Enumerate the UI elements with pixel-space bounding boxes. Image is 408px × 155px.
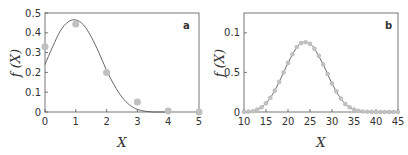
x-tick-label: 0 (42, 116, 48, 127)
data-point (273, 88, 278, 93)
data-point (303, 40, 308, 45)
data-point (317, 53, 322, 58)
data-point (251, 109, 256, 114)
data-point (321, 62, 326, 67)
data-point (365, 109, 370, 114)
data-point (165, 108, 172, 115)
panel-b-frame (244, 13, 398, 112)
data-point (312, 46, 317, 51)
x-tick-label: 20 (282, 116, 295, 127)
data-point (387, 110, 392, 115)
panel-b-y-axis: 00.50.1 (224, 27, 247, 117)
panel-a-fitted-curve (45, 20, 168, 112)
y-tick-label: 0.2 (25, 67, 41, 78)
data-point (352, 107, 357, 112)
data-point (196, 109, 203, 116)
data-point (374, 110, 379, 115)
data-point (299, 41, 304, 46)
y-tick-label: 0.5 (25, 8, 41, 19)
panel-a-y-title: f (X) (8, 49, 23, 78)
data-point (334, 89, 339, 94)
data-point (255, 107, 260, 112)
data-point (343, 102, 348, 107)
data-point (246, 109, 251, 114)
data-point (347, 105, 352, 110)
data-point (281, 70, 286, 75)
x-tick-label: 10 (238, 116, 251, 127)
data-point (286, 61, 291, 66)
panel-b-chart: 00.50.1 1015202530354045 b X f (X) (212, 13, 404, 150)
data-point (42, 43, 49, 50)
x-tick-label: 45 (392, 116, 405, 127)
panel-b-label: b (385, 20, 392, 31)
x-tick-label: 2 (103, 116, 109, 127)
data-point (396, 110, 401, 115)
data-point (330, 81, 335, 86)
x-tick-label: 3 (134, 116, 140, 127)
y-tick-label: 0.3 (25, 47, 41, 58)
data-point (134, 99, 141, 106)
data-point (369, 110, 374, 115)
data-point (290, 52, 295, 57)
panel-a-x-title: X (116, 135, 127, 150)
data-point (242, 110, 247, 115)
x-tick-label: 1 (73, 116, 79, 127)
data-point (383, 110, 388, 115)
panel-a-data-points (42, 20, 203, 115)
data-point (277, 80, 282, 85)
panel-b-x-title: X (315, 135, 326, 150)
panel-a-chart: 00.10.20.30.40.5 012345 a X f (X) (8, 8, 203, 151)
panel-b-y-title: f (X) (212, 49, 227, 78)
x-tick-label: 40 (370, 116, 383, 127)
y-tick-label: 0 (35, 107, 41, 118)
data-point (378, 110, 383, 115)
data-point (103, 69, 110, 76)
panel-b-data-points (242, 40, 401, 114)
data-point (295, 45, 300, 50)
data-point (361, 109, 366, 114)
data-point (264, 101, 269, 106)
x-tick-label: 4 (165, 116, 171, 127)
panel-a-label: a (183, 20, 190, 31)
data-point (325, 72, 330, 77)
y-tick-label: 0.1 (25, 87, 41, 98)
x-tick-label: 30 (326, 116, 339, 127)
y-tick-label: 0.4 (25, 27, 41, 38)
x-tick-label: 25 (304, 116, 317, 127)
x-tick-label: 35 (348, 116, 361, 127)
x-tick-label: 5 (196, 116, 202, 127)
chart-canvas: 00.10.20.30.40.5 012345 a X f (X) 00.50.… (0, 0, 408, 155)
x-tick-label: 15 (260, 116, 273, 127)
y-tick-label: 0.1 (224, 27, 240, 38)
data-point (268, 95, 273, 100)
data-point (259, 105, 264, 110)
panel-a-y-axis: 00.10.20.30.40.5 (25, 8, 48, 118)
data-point (339, 96, 344, 101)
data-point (308, 42, 313, 47)
data-point (356, 109, 361, 114)
data-point (72, 20, 79, 27)
data-point (391, 110, 396, 115)
